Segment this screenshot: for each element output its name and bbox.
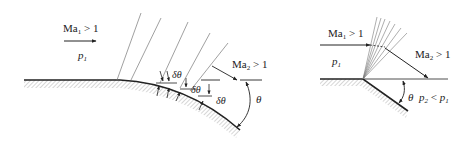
curved-wall-hatch <box>24 80 240 138</box>
turn-angle-label-right: θ <box>408 92 413 103</box>
corner-wall-hatch <box>320 79 408 118</box>
delta-theta-label-3: δθ <box>216 96 226 106</box>
turn-angle-arc <box>237 82 250 127</box>
pressure-relation-label: p2 < p1 <box>419 92 449 105</box>
upstream-pressure-label: p1 <box>78 50 87 63</box>
left-panel <box>24 13 262 138</box>
upstream-pressure-label-right: p1 <box>332 56 341 69</box>
upstream-mach-label-right: Ma1 > 1 <box>328 28 363 41</box>
delta-theta-label-2: δθ <box>191 85 201 95</box>
downstream-mach-label-right: Ma2 > 1 <box>415 49 450 62</box>
upstream-mach-label: Ma1 > 1 <box>63 23 98 36</box>
expansion-wave-diagram: Ma1 > 1 p1 δθ δθ δθ Ma2 > 1 θ Ma1 > 1 p1… <box>0 0 470 153</box>
downstream-mach-label: Ma2 > 1 <box>232 59 267 72</box>
turn-angle-label: θ <box>256 94 261 105</box>
delta-theta-label-1: δθ <box>172 70 182 80</box>
turn-angle-arc-right <box>399 81 404 103</box>
